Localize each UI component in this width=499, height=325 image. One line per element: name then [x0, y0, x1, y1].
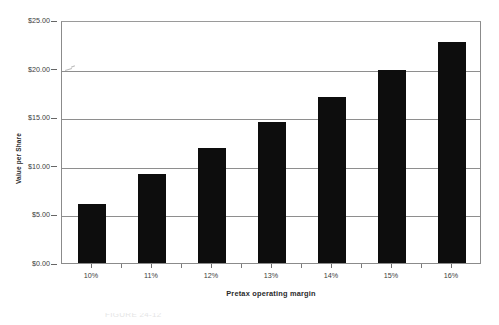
bar: [378, 70, 407, 263]
x-axis-tick: 13%: [241, 264, 301, 290]
x-axis-tick: 15%: [361, 264, 421, 290]
bar: [198, 148, 227, 263]
y-axis-tick: $25.00: [0, 16, 57, 26]
x-axis-tick-label: 15%: [361, 271, 421, 280]
x-axis-tick-mark: [391, 264, 392, 268]
y-axis-tick-label: $20.00: [28, 65, 50, 75]
y-axis-tick: $10.00: [0, 162, 57, 172]
y-axis-tick-mark: [51, 264, 57, 265]
y-axis-tick-mark: [51, 118, 57, 119]
y-axis-tick: $15.00: [0, 113, 57, 123]
x-axis-tick: 11%: [121, 264, 181, 290]
x-axis-tick-label: 13%: [241, 271, 301, 280]
x-axis-tick: 14%: [301, 264, 361, 290]
y-axis-tick-label: $25.00: [28, 16, 50, 26]
x-axis-tick-mark: [451, 264, 452, 268]
x-axis-tick-label: 16%: [421, 271, 481, 280]
x-axis-tick-mark: [271, 264, 272, 268]
y-axis-tick-label: $5.00: [32, 210, 50, 220]
y-axis-ticks: $0.00$5.00$10.00$15.00$20.00$25.00: [0, 0, 57, 325]
x-axis-tick-label: 14%: [301, 271, 361, 280]
y-axis-tick-label: $15.00: [28, 113, 50, 123]
x-axis-separator-tick: [301, 264, 302, 268]
figure-caption: FIGURE 24-12: [0, 313, 499, 325]
bar: [438, 42, 467, 263]
x-axis-separator-tick: [121, 264, 122, 268]
x-axis-tick: 12%: [181, 264, 241, 290]
plot-area: [61, 21, 481, 264]
x-axis-tick-label: 11%: [121, 271, 181, 280]
y-axis-tick-mark: [51, 69, 57, 70]
bar: [78, 204, 107, 263]
y-axis-tick: $5.00: [0, 210, 57, 220]
bar: [258, 122, 287, 263]
x-axis-ticks: 10%11%12%13%14%15%16%: [61, 264, 481, 290]
x-axis-separator-tick: [421, 264, 422, 268]
x-axis-tick-mark: [151, 264, 152, 268]
x-axis-tick-mark: [91, 264, 92, 268]
x-axis-tick: 16%: [421, 264, 481, 290]
bars-layer: [62, 22, 480, 263]
x-axis-separator-tick: [241, 264, 242, 268]
y-axis-tick: $0.00: [0, 259, 57, 269]
x-axis-tick-mark: [331, 264, 332, 268]
x-axis-tick-mark: [211, 264, 212, 268]
x-axis-tick-label: 10%: [61, 271, 121, 280]
x-axis-tick-label: 12%: [181, 271, 241, 280]
y-axis-tick-mark: [51, 215, 57, 216]
y-axis-tick-mark: [51, 166, 57, 167]
bar-chart-figure: Value per Share $0.00$5.00$10.00$15.00$2…: [0, 0, 499, 325]
figure-caption-text: FIGURE 24-12: [105, 313, 162, 319]
bar: [138, 174, 167, 263]
x-axis-tick: 10%: [61, 264, 121, 290]
y-axis-tick-mark: [51, 21, 57, 22]
x-axis-separator-tick: [361, 264, 362, 268]
bar: [318, 97, 347, 263]
x-axis-title: Pretax operating margin: [61, 289, 481, 298]
y-axis-tick-label: $10.00: [28, 162, 50, 172]
x-axis-separator-tick: [181, 264, 182, 268]
y-axis-tick-label: $0.00: [32, 259, 50, 269]
y-axis-tick: $20.00: [0, 65, 57, 75]
